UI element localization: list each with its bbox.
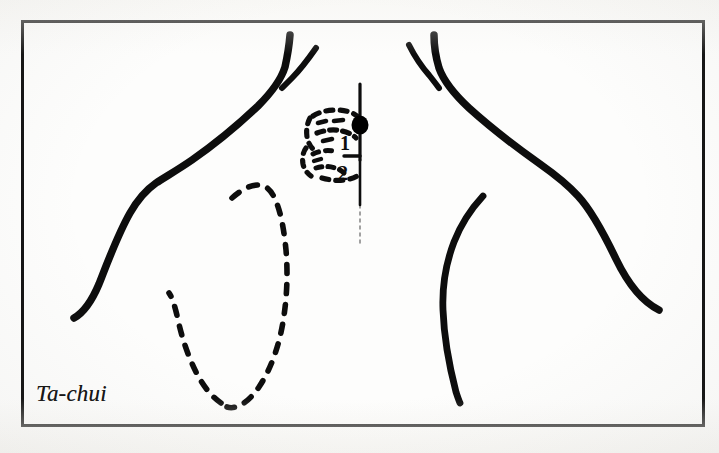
vertebra-detail-mark-a [318,121,326,123]
vertebra-detail-mark-b [334,120,343,121]
right-shoulder-arm-contour [434,35,659,310]
left-shoulder-arm-contour [74,35,290,318]
illustration-plate: 1 2 [0,0,719,453]
scapula-outline [169,185,287,408]
vertebra-1-left-edge [307,118,313,149]
vertebra-2-left-edge [303,148,311,176]
vertebra-number-1: 1 [340,132,350,154]
body-contours [74,35,659,403]
vertebra-detail-mark-c [323,139,332,141]
vertebra-1-top-edge [313,110,357,116]
acupuncture-point-dot [352,116,369,135]
figure-caption: Ta-chui [36,381,107,407]
vertebra-number-2: 2 [338,162,348,184]
right-inner-arm-contour [443,196,483,403]
scapula-medial-border [227,185,287,408]
scapula-lateral-border [169,293,221,403]
vertebra-1-mid-edge [317,130,356,138]
scanned-page: 1 2 Ta-chui [0,0,719,453]
vertebra-2-upper-edge [313,151,333,154]
vertebra-number-labels: 1 2 [338,132,350,184]
anatomy-drawing: 1 2 [0,0,719,453]
vertebra-detail-mark-d [314,159,321,161]
